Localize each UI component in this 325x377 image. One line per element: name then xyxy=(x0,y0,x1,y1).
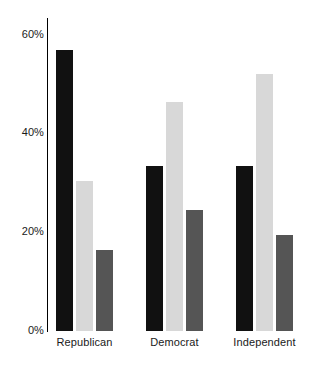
y-tick-label-40: 40% xyxy=(22,127,44,138)
bars-independent xyxy=(236,35,293,331)
y-tick-label-0: 0% xyxy=(28,325,44,336)
bar-group-democrat: Democrat xyxy=(146,35,203,331)
bar-democrat-series-1[interactable] xyxy=(146,166,163,331)
bar-democrat-series-2[interactable] xyxy=(166,102,183,331)
bars-democrat xyxy=(146,35,203,331)
bar-republican-series-1[interactable] xyxy=(56,50,73,331)
plot-area: 60% 40% 20% 0% Republican xyxy=(0,0,325,377)
group-label-independent: Independent xyxy=(233,337,295,348)
bars-republican xyxy=(56,35,113,331)
y-tick-60: 60% xyxy=(0,29,44,41)
y-axis-line xyxy=(47,18,48,332)
bar-republican-series-2[interactable] xyxy=(76,181,93,331)
y-tick-0: 0% xyxy=(0,325,44,337)
bar-republican-series-3[interactable] xyxy=(96,250,113,331)
group-label-republican: Republican xyxy=(56,337,112,348)
y-tick-40: 40% xyxy=(0,127,44,139)
y-tick-label-20: 20% xyxy=(22,226,44,237)
bar-group-independent: Independent xyxy=(236,35,293,331)
y-tick-label-60: 60% xyxy=(22,29,44,40)
bar-independent-series-3[interactable] xyxy=(276,235,293,331)
group-label-democrat: Democrat xyxy=(150,337,198,348)
bar-independent-series-2[interactable] xyxy=(256,74,273,331)
y-tick-20: 20% xyxy=(0,226,44,238)
bar-independent-series-1[interactable] xyxy=(236,166,253,331)
bar-chart: 60% 40% 20% 0% Republican xyxy=(0,0,325,377)
bar-group-republican: Republican xyxy=(56,35,113,331)
bar-democrat-series-3[interactable] xyxy=(186,210,203,331)
